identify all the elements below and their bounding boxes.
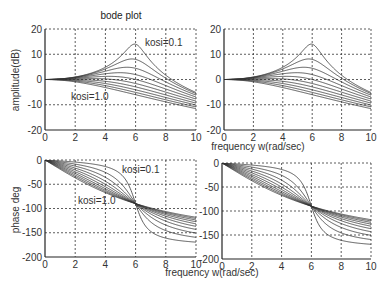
amplitude-x-label: frequency w(rad/sec) (211, 141, 304, 152)
annotation-kosi-high-phase: kosi=1.0 (78, 195, 116, 206)
phase-plot-left: 0246810-200-150-100-500 (22, 155, 202, 271)
phase-x-label: frequency w(rad/sec) (165, 267, 258, 278)
curves (222, 163, 371, 244)
curve-kosi-0.7 (222, 163, 371, 224)
x-tick-label: 4 (103, 132, 109, 143)
y-tick-label: -50 (205, 182, 220, 193)
annotation-kosi-low-phase: kosi=0.1 (122, 164, 160, 175)
y-tick-label: -100 (199, 206, 219, 217)
x-tick-label: 6 (309, 132, 315, 143)
curve-kosi-0.4 (222, 163, 371, 232)
phase-y-label: phase deg (10, 187, 21, 234)
y-tick-label: -50 (28, 179, 43, 190)
y-tick-label: 10 (31, 49, 43, 60)
annotation-kosi-high-amp: kosi=1.0 (71, 91, 109, 102)
x-tick-label: 8 (339, 132, 345, 143)
y-tick-label: -200 (199, 254, 219, 265)
y-tick-label: 0 (215, 74, 221, 85)
y-tick-label: -20 (28, 125, 43, 136)
chart-title: bode plot (100, 10, 141, 21)
x-tick-label: 10 (365, 261, 377, 272)
y-tick-label: -100 (22, 203, 42, 214)
x-tick-label: 10 (190, 132, 202, 143)
curve-kosi-0.4 (45, 160, 196, 229)
curves (45, 44, 196, 109)
x-tick-label: 6 (309, 261, 315, 272)
bode-plot-figure: 0246810-20-10010200246810-20-10010200246… (0, 0, 386, 294)
y-tick-label: -10 (28, 99, 43, 110)
curve-kosi-0.6 (224, 79, 371, 101)
x-tick-label: 0 (42, 132, 48, 143)
curve-kosi-0.6 (45, 79, 196, 101)
y-tick-label: -20 (207, 125, 222, 136)
x-tick-label: 10 (365, 132, 377, 143)
x-tick-label: 0 (42, 259, 48, 270)
x-tick-label: 2 (72, 132, 78, 143)
y-tick-label: -10 (207, 99, 222, 110)
amplitude-y-label: amplitude(dB) (10, 49, 21, 111)
y-tick-label: 0 (36, 74, 42, 85)
x-tick-label: 6 (133, 132, 139, 143)
y-tick-label: -150 (22, 227, 42, 238)
y-tick-label: 20 (31, 24, 43, 35)
curve-kosi-0.4 (224, 73, 371, 97)
curve-kosi-0.4 (45, 73, 196, 97)
x-tick-label: 2 (72, 259, 78, 270)
curves (224, 44, 371, 109)
y-tick-label: 10 (210, 49, 222, 60)
x-tick-label: 4 (279, 261, 285, 272)
x-tick-label: 8 (338, 261, 344, 272)
y-tick-label: 0 (213, 158, 219, 169)
x-tick-label: 4 (103, 259, 109, 270)
annotation-kosi-low-amp: kosi=0.1 (145, 37, 183, 48)
curves (45, 160, 196, 242)
phase-plot-right: 0246810-200-150-100-500 (199, 158, 377, 273)
y-tick-label: 0 (36, 155, 42, 166)
x-tick-label: 8 (163, 132, 169, 143)
curve-kosi-0.7 (45, 160, 196, 222)
x-tick-label: 6 (133, 259, 139, 270)
y-tick-label: -200 (22, 252, 42, 263)
y-tick-label: 20 (210, 24, 222, 35)
amplitude-plot-right: 0246810-20-1001020 (207, 24, 377, 144)
y-tick-label: -150 (199, 230, 219, 241)
